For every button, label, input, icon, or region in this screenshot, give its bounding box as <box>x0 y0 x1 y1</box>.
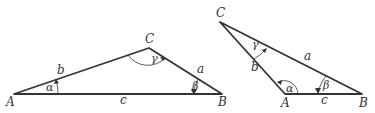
triangle-diagram: A C B b a c α γ β C A B a b c γ α β <box>0 0 375 113</box>
vertex-C-label: C <box>145 32 154 46</box>
vertex-A-label: A <box>5 95 15 109</box>
side-c-label: c <box>321 93 328 107</box>
side-a-label: a <box>197 62 204 76</box>
angle-beta-label: β <box>191 80 198 93</box>
side-b-label: b <box>57 63 65 77</box>
angle-alpha-label: α <box>46 81 54 94</box>
vertex-B-label: B <box>217 95 227 109</box>
side-a-label: a <box>304 49 311 63</box>
vertex-C-label: C <box>216 6 225 20</box>
arrow-head-icon <box>277 80 282 85</box>
angle-gamma-label: γ <box>151 52 158 65</box>
angle-alpha-label: α <box>286 82 294 95</box>
angle-gamma-arc <box>128 55 165 65</box>
vertex-B-label: B <box>358 96 368 110</box>
side-c-label: c <box>120 93 127 107</box>
triangle-right: C A B a b c γ α β <box>216 6 368 110</box>
vertex-A-label: A <box>280 96 290 110</box>
angle-beta-label: β <box>322 79 329 92</box>
angle-gamma-label: γ <box>252 38 259 51</box>
triangle-left: A C B b a c α γ β <box>5 32 227 109</box>
side-b-label: b <box>251 60 259 74</box>
